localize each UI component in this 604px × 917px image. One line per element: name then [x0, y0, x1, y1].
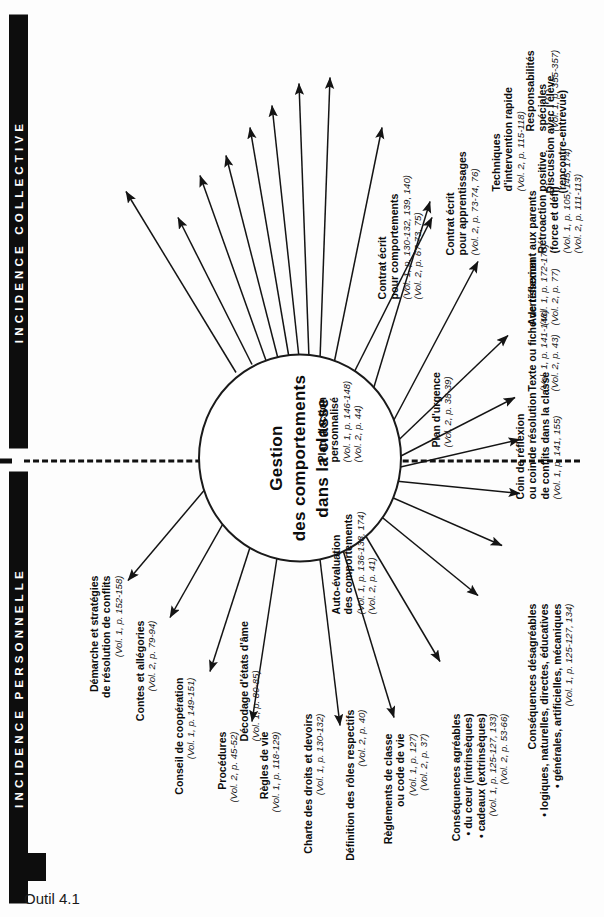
label-coin-de-reflexion: Coin de réflexion ou coin de résolution … — [514, 279, 562, 499]
label-reglements-classe-code-vie: Règlements de classe ou code de vie (Vol… — [382, 733, 429, 899]
label-decodage-etats-ame: Décodage d'états d'âme (Vol. 1, p. 80-85… — [238, 551, 261, 741]
figure-caption: Outil 4.1 — [24, 890, 80, 907]
center-node-line-1: Gestion — [267, 425, 287, 490]
label-contrat-ecrit-comportements: Contrat écrit pour comportements (Vol. 1… — [376, 79, 423, 299]
label-contes-allegories: Contes et allégories (Vol. 2, p. 79-94) — [134, 620, 157, 825]
center-node-line-2: des comportements — [290, 374, 310, 541]
label-plan-action-personnalise: Plan d'action personnalisé (Vol. 1, p. 1… — [316, 272, 363, 462]
label-procedures: Procédures (Vol. 2, p. 45-52) — [216, 731, 239, 897]
label-conseil-cooperation: Conseil de coopération (Vol. 1, p. 149-1… — [173, 677, 196, 889]
label-contrat-ecrit-apprentissages: Contrat écrit pour apprentissages (Vol. … — [444, 55, 480, 255]
label-consequences-desagreables: Conséquences désagréables • logiques, na… — [526, 603, 574, 903]
label-definition-roles-respectifs: Définition des rôles respectifs (Vol. 2,… — [344, 709, 367, 899]
diagram-page: INCIDENCE PERSONNELLE INCIDENCE COLLECTI… — [0, 0, 604, 917]
label-charte-droits-devoirs: Charte des droits et devoirs (Vol. 1, p.… — [302, 713, 325, 899]
label-techniques-intervention-rapide: Techniques d'intervention rapide (Vol. 2… — [490, 1, 526, 191]
label-plan-urgence: Plan d'urgence (Vol. 2, p. 38-39) — [430, 257, 453, 447]
caption-mark — [24, 853, 46, 881]
label-demarche-strategies: Démarche et stratégies de résolution de … — [88, 575, 124, 785]
label-regles-de-vie: Règles de vie (Vol. 1, p. 118-129) — [258, 731, 281, 899]
rotated-poster-stage: INCIDENCE PERSONNELLE INCIDENCE COLLECTI… — [0, 0, 604, 917]
label-consequences-agreables: Conséquences agréables • du cœur (intrin… — [450, 713, 509, 899]
